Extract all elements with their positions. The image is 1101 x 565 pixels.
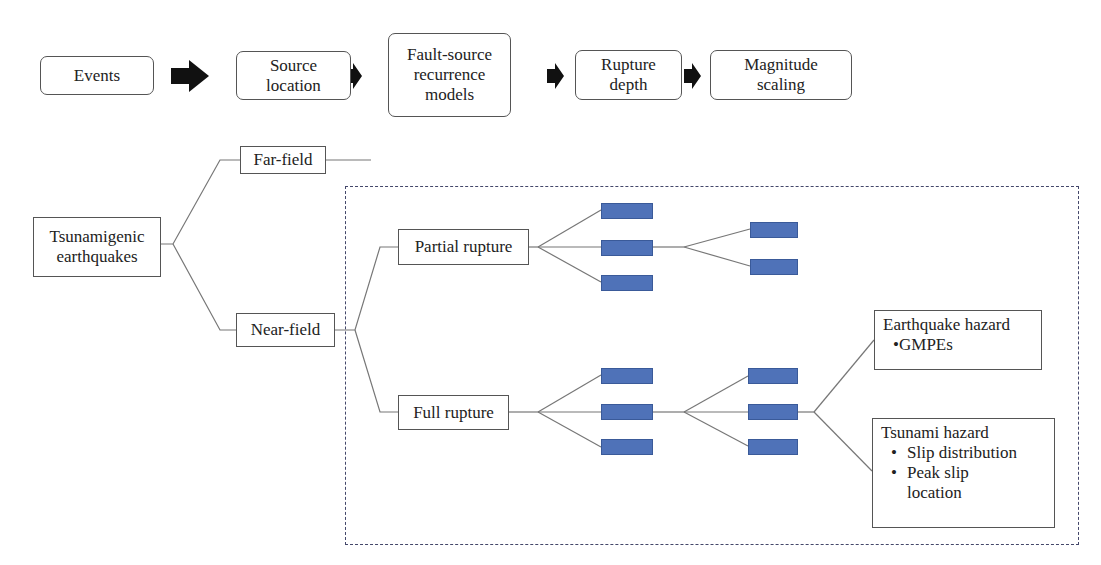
- pipeline-step-rupture-depth: Rupture depth: [575, 50, 682, 100]
- earthquake-hazard-list: GMPEs: [883, 335, 1033, 355]
- tsunami-hazard-list: Slip distribution Peak slip location: [881, 443, 1046, 503]
- full-rupture-subbranch-3: [748, 439, 798, 455]
- right-arrow-icon: [547, 63, 564, 89]
- connector-near-partial: [335, 247, 398, 330]
- connector-partial-l1-top: [538, 210, 601, 247]
- tsunami-hazard-node: Tsunami hazard Slip distribution Peak sl…: [872, 418, 1055, 528]
- partial-rupture-branch-1: [601, 203, 653, 219]
- tsunami-hazard-item: Slip distribution: [881, 443, 1046, 463]
- connector-to-earthquake-hazard: [814, 340, 874, 412]
- connector-full-l2-top: [684, 376, 748, 412]
- connector-root-far: [161, 160, 240, 244]
- connector-partial-l1-bot: [538, 247, 601, 282]
- connector-full-l1-top: [538, 375, 601, 412]
- connector-root-near: [173, 244, 236, 330]
- connector-partial-l2-top: [684, 229, 750, 247]
- partial-rupture-subbranch-2: [750, 259, 798, 275]
- full-rupture-node: Full rupture: [398, 395, 509, 430]
- earthquake-hazard-item: GMPEs: [883, 335, 1033, 355]
- right-arrow-icon: [171, 60, 209, 92]
- partial-rupture-subbranch-1: [750, 222, 798, 238]
- pipeline-step-fault-source-recurrence-models: Fault-source recurrence models: [388, 33, 511, 117]
- connector-full-l2-bot: [684, 412, 748, 446]
- connector-near-full: [355, 330, 398, 412]
- full-rupture-subbranch-1: [748, 368, 798, 384]
- far-field-node: Far-field: [240, 146, 326, 174]
- near-field-node: Near-field: [236, 313, 335, 347]
- full-rupture-branch-3: [601, 439, 653, 455]
- full-rupture-subbranch-2: [748, 404, 798, 420]
- partial-rupture-branch-2: [601, 240, 653, 256]
- connector-to-tsunami-hazard: [814, 412, 872, 471]
- earthquake-hazard-node: Earthquake hazard GMPEs: [874, 310, 1042, 370]
- connector-full-l1-bot: [538, 412, 601, 447]
- full-rupture-branch-2: [601, 404, 653, 420]
- pipeline-step-events: Events: [40, 56, 154, 95]
- earthquake-hazard-title: Earthquake hazard: [883, 315, 1033, 335]
- tsunamigenic-earthquakes-node: Tsunamigenic earthquakes: [33, 217, 161, 277]
- pipeline-step-source-location: Source location: [236, 51, 351, 100]
- partial-rupture-branch-3: [601, 275, 653, 291]
- tsunami-hazard-item: Peak slip location: [881, 463, 1046, 503]
- full-rupture-branch-1: [601, 368, 653, 384]
- connector-partial-l2-bot: [684, 247, 750, 266]
- pipeline-step-magnitude-scaling: Magnitude scaling: [710, 50, 852, 100]
- right-arrow-icon: [684, 63, 701, 89]
- partial-rupture-node: Partial rupture: [398, 229, 529, 265]
- tsunami-hazard-title: Tsunami hazard: [881, 423, 1046, 443]
